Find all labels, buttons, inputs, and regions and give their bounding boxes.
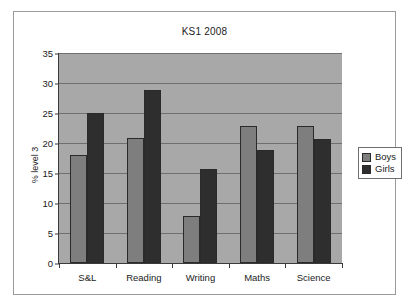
x-axis-label-science: Science xyxy=(297,272,331,283)
y-axis-label: % level 3 xyxy=(30,135,40,195)
bar-girls xyxy=(314,139,331,263)
bar-group xyxy=(229,53,286,263)
legend-swatch-girls-icon xyxy=(362,165,371,174)
y-axis-tick-label: 30 xyxy=(42,78,59,89)
x-axis-label-writing: Writing xyxy=(186,272,215,283)
y-axis-tick-label: 15 xyxy=(42,168,59,179)
bar-girls xyxy=(257,150,274,263)
chart-title: KS1 2008 xyxy=(14,26,395,37)
y-axis-tick-label: 25 xyxy=(42,108,59,119)
x-axis-tick xyxy=(342,263,343,268)
y-axis-tick-label: 5 xyxy=(48,228,59,239)
x-axis-label-s-l: S&L xyxy=(78,272,96,283)
y-axis-tick-label: 0 xyxy=(48,258,59,269)
chart-legend: Boys Girls xyxy=(358,147,402,179)
legend-swatch-boys-icon xyxy=(362,153,371,162)
chart-frame: KS1 2008 % level 3 05101520253035S&LRead… xyxy=(13,11,396,295)
y-axis-tick-label: 20 xyxy=(42,138,59,149)
y-axis-tick-label: 35 xyxy=(42,48,59,59)
plot-inner: 05101520253035S&LReadingWritingMathsScie… xyxy=(59,53,342,263)
bar-boys xyxy=(183,216,200,263)
y-axis-tick-label: 10 xyxy=(42,198,59,209)
legend-item-girls: Girls xyxy=(362,163,396,175)
bar-group xyxy=(59,53,116,263)
x-axis-tick xyxy=(59,263,60,268)
x-axis-tick xyxy=(172,263,173,268)
bar-group xyxy=(285,53,342,263)
bar-group xyxy=(172,53,229,263)
bar-girls xyxy=(144,90,161,263)
bar-group xyxy=(116,53,173,263)
x-axis-tick xyxy=(229,263,230,268)
bar-boys xyxy=(70,155,87,263)
bar-boys xyxy=(297,126,314,263)
x-axis-tick xyxy=(285,263,286,268)
x-axis-tick xyxy=(116,263,117,268)
bar-girls xyxy=(87,113,104,263)
legend-label-boys: Boys xyxy=(375,151,396,163)
x-axis-label-maths: Maths xyxy=(244,272,270,283)
legend-label-girls: Girls xyxy=(375,163,395,175)
bar-boys xyxy=(240,126,257,263)
bar-boys xyxy=(127,138,144,263)
legend-item-boys: Boys xyxy=(362,151,396,163)
bar-girls xyxy=(200,169,217,263)
x-axis-label-reading: Reading xyxy=(126,272,161,283)
plot-area: 05101520253035S&LReadingWritingMathsScie… xyxy=(58,53,342,264)
